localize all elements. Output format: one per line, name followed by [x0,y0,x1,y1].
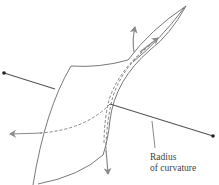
radius-lines [4,73,213,148]
surface-top-edge [71,60,128,66]
surface-right-edge [103,6,186,155]
tangent-arrow-upright-icon [140,38,158,52]
dashed-curve-horizontal [40,104,110,133]
surface-bottom-edge [38,155,103,184]
principal-curves [40,45,150,152]
tangent-arrow-down-icon [106,150,108,174]
radius-label-line1: Radius [150,152,196,163]
radius-label: Radius of curvature [150,152,196,174]
tangent-arrow-left-icon [10,133,42,134]
radius-label-line2: of curvature [150,163,196,174]
radius-line-right [110,104,213,136]
dashed-curve-vertical-inner [104,48,146,145]
tangent-arrows [10,27,158,174]
center-of-curvature-dot-left [2,71,6,75]
center-of-curvature-dot-right [211,134,215,138]
label-leader-line [152,121,155,148]
dashed-curve-vertical [106,45,150,152]
radius-line-left [4,73,55,89]
tangent-arrow-up-icon [133,27,135,52]
surface-fold-edge [128,6,186,60]
